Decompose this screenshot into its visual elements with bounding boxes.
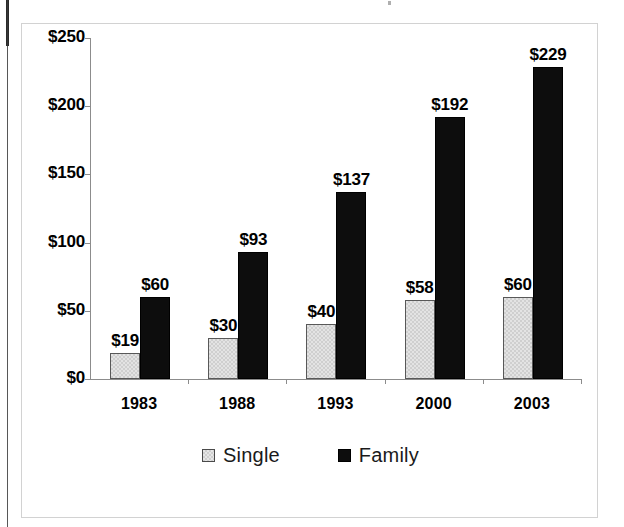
- y-axis-tick: [85, 379, 90, 380]
- bar-value-label: $93: [239, 230, 267, 250]
- bar-value-label: $60: [504, 275, 532, 295]
- bar-single-1988[interactable]: $30: [208, 338, 238, 379]
- y-axis-labels: $0$50$100$150$200$250: [30, 38, 85, 379]
- bar-group: $58$192: [385, 38, 483, 379]
- y-axis-tick-label: $150: [48, 163, 85, 183]
- bar-group: $19$60: [90, 38, 188, 379]
- x-axis-tick: [581, 379, 582, 384]
- bar-single-2003[interactable]: $60: [503, 297, 533, 379]
- y-axis-tick-label: $50: [57, 300, 85, 320]
- legend-swatch-family-icon: [338, 449, 351, 462]
- bar-value-label: $40: [308, 302, 336, 322]
- x-axis-category-label: 2003: [483, 395, 581, 413]
- scan-speck-artifact: [388, 1, 391, 5]
- bar-value-label: $192: [431, 95, 468, 115]
- bar-value-label: $229: [529, 45, 566, 65]
- bar-value-label: $137: [333, 170, 370, 190]
- x-axis-tick: [385, 379, 386, 384]
- plot-area: $19$601983$30$931988$40$1371993$58$19220…: [90, 38, 581, 379]
- y-axis-tick-label: $100: [48, 232, 85, 252]
- x-axis-tick: [286, 379, 287, 384]
- legend-item-single[interactable]: Single: [202, 444, 280, 467]
- bar-value-label: $30: [209, 316, 237, 336]
- legend-label: Family: [359, 444, 419, 467]
- bar-value-label: $19: [111, 331, 139, 351]
- bar-family-1988[interactable]: $93: [238, 252, 268, 379]
- chart-frame: $0$50$100$150$200$250 $19$601983$30$9319…: [21, 23, 598, 518]
- x-axis-category-label: 1988: [188, 395, 286, 413]
- scan-page-edge-line: [7, 0, 8, 527]
- x-axis-tick: [188, 379, 189, 384]
- bar-value-label: $60: [141, 275, 169, 295]
- legend-item-family[interactable]: Family: [338, 444, 419, 467]
- bar-family-2003[interactable]: $229: [533, 67, 563, 379]
- bar-single-1983[interactable]: $19: [110, 353, 140, 379]
- x-axis-category-label: 2000: [385, 395, 483, 413]
- bar-group: $30$93: [188, 38, 286, 379]
- x-axis-line: [90, 379, 581, 380]
- y-axis-tick-label: $250: [48, 27, 85, 47]
- legend-label: Single: [223, 444, 280, 467]
- bar-single-1993[interactable]: $40: [306, 324, 336, 379]
- x-axis-category-label: 1983: [90, 395, 188, 413]
- legend-swatch-single-icon: [202, 449, 215, 462]
- bar-family-1983[interactable]: $60: [140, 297, 170, 379]
- bar-group: $60$229: [483, 38, 581, 379]
- x-axis-tick: [483, 379, 484, 384]
- bar-value-label: $58: [406, 278, 434, 298]
- chart-legend: SingleFamily: [22, 444, 599, 467]
- bar-family-1993[interactable]: $137: [336, 192, 366, 379]
- y-axis-tick-label: $0: [66, 368, 85, 388]
- y-axis-tick-label: $200: [48, 95, 85, 115]
- bar-family-2000[interactable]: $192: [435, 117, 465, 379]
- bar-single-2000[interactable]: $58: [405, 300, 435, 379]
- x-axis-category-label: 1993: [286, 395, 384, 413]
- bar-group: $40$137: [286, 38, 384, 379]
